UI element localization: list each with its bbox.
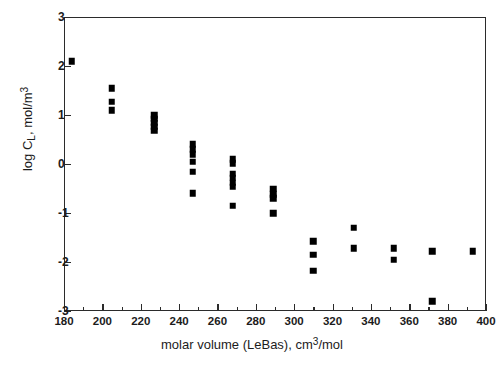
y-tick-label: 3	[58, 10, 65, 24]
y-tick-label: -1	[58, 206, 69, 220]
data-point-marker	[350, 224, 357, 231]
x-tick-major	[486, 304, 487, 311]
x-tick-minor	[160, 307, 161, 311]
x-tick-minor	[122, 307, 123, 311]
x-tick-label: 320	[323, 315, 342, 327]
y-tick-label: 2	[58, 59, 65, 73]
x-tick-label: 200	[93, 315, 112, 327]
y-tick-label: 1	[58, 108, 65, 122]
x-tick-major	[217, 304, 218, 311]
data-point-marker	[189, 158, 196, 165]
x-tick-major	[256, 304, 257, 311]
x-tick-minor	[198, 307, 199, 311]
x-tick-major	[102, 304, 103, 311]
data-point-marker	[189, 169, 196, 176]
y-tick-label: -2	[58, 255, 69, 269]
data-point-marker	[109, 107, 116, 114]
x-tick-minor	[428, 307, 429, 311]
data-point-marker	[230, 202, 237, 209]
data-point-marker	[189, 190, 196, 197]
data-point-marker	[310, 238, 317, 245]
data-point-marker	[109, 99, 116, 106]
data-point-marker	[270, 195, 277, 202]
x-tick-label: 400	[476, 315, 495, 327]
y-tick-label: 0	[58, 157, 65, 171]
y-axis-title-pre: log C	[20, 141, 35, 171]
y-axis-title-sub: L	[26, 135, 37, 141]
x-tick-minor	[352, 307, 353, 311]
x-tick-label: 300	[285, 315, 304, 327]
data-point-marker	[189, 151, 196, 158]
x-tick-minor	[275, 307, 276, 311]
y-tick-major	[64, 17, 71, 18]
y-tick-major	[64, 164, 71, 165]
data-point-marker	[230, 183, 237, 190]
x-tick-major	[179, 304, 180, 311]
x-tick-major	[294, 304, 295, 311]
data-point-marker	[310, 268, 317, 275]
data-point-marker	[151, 127, 158, 134]
x-tick-major	[448, 304, 449, 311]
y-axis-title-sup: 3	[19, 87, 30, 93]
data-point-marker	[391, 256, 398, 263]
x-tick-label: 240	[169, 315, 188, 327]
x-tick-label: 340	[361, 315, 380, 327]
x-tick-minor	[467, 307, 468, 311]
y-tick-label: -3	[58, 304, 69, 318]
x-tick-label: 280	[246, 315, 265, 327]
x-tick-minor	[237, 307, 238, 311]
x-axis-title: molar volume (LeBas), cm3/mol	[0, 336, 504, 352]
data-point-marker	[429, 248, 436, 255]
y-axis-title-mid: , mol/m	[20, 92, 35, 135]
x-tick-label: 380	[438, 315, 457, 327]
x-tick-minor	[390, 307, 391, 311]
x-tick-major	[409, 304, 410, 311]
data-point-marker	[429, 298, 436, 305]
data-point-marker	[270, 210, 277, 217]
data-point-marker	[310, 251, 317, 258]
scatter-plot-figure: 180200220240260280300320340360380400 321…	[0, 0, 504, 366]
data-point-marker	[469, 248, 476, 255]
x-tick-minor	[83, 307, 84, 311]
x-axis-title-post: /mol	[318, 337, 343, 352]
x-tick-label: 220	[131, 315, 150, 327]
x-tick-major	[141, 304, 142, 311]
data-point-marker	[68, 58, 75, 65]
data-point-marker	[391, 245, 398, 252]
y-tick-major	[64, 66, 71, 67]
x-tick-label: 260	[208, 315, 227, 327]
x-tick-major	[371, 304, 372, 311]
y-axis-title: log CL, mol/m3	[19, 39, 37, 219]
x-tick-major	[333, 304, 334, 311]
x-tick-minor	[313, 307, 314, 311]
data-point-marker	[350, 245, 357, 252]
data-point-marker	[230, 160, 237, 167]
data-point-marker	[109, 85, 116, 92]
x-tick-label: 360	[400, 315, 419, 327]
x-axis-title-pre: molar volume (LeBas), cm	[161, 337, 313, 352]
plot-area	[64, 17, 486, 311]
y-tick-major	[64, 115, 71, 116]
